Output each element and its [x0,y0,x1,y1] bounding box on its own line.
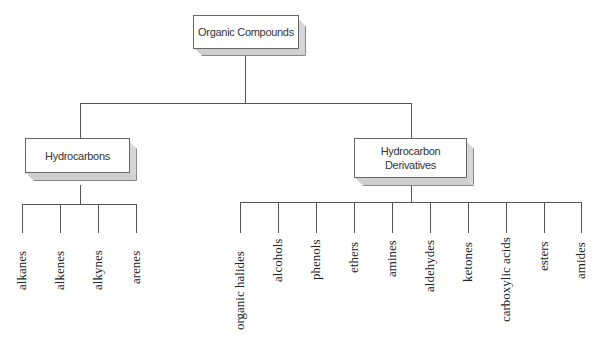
derivatives-drop [411,103,412,139]
derivatives-node: Hydrocarbon Derivatives [354,138,467,178]
derivatives-children-bar [240,202,582,203]
derivatives-label-line1: Hydrocarbon [381,144,441,158]
leaf-arenes: arenes [128,251,144,284]
leaf-ethers: ethers [346,242,362,273]
leaf-line-alkynes [98,204,99,233]
hydrocarbons-shadow-bottom [25,172,137,181]
leaf-line-organic-halides [240,202,241,233]
leaf-carboxylic-acids: carboxylic acids [498,237,514,322]
leaf-phenols: phenols [308,240,324,280]
level1-bar [80,103,412,104]
leaf-line-carboxylic-acids [506,202,507,233]
leaf-aldehydes: aldehydes [422,240,438,292]
leaf-amides: amides [573,242,589,279]
leaf-line-alkanes [22,204,23,233]
derivatives-shadow-bottom [354,177,474,186]
hydrocarbons-children-bar [22,204,137,205]
leaf-line-arenes [136,204,137,233]
leaf-alkenes: alkenes [52,251,68,290]
leaf-alkanes: alkanes [14,251,30,290]
leaf-line-ketones [468,202,469,233]
root-stem [245,56,246,103]
leaf-line-alkenes [60,204,61,233]
leaf-ketones: ketones [460,242,476,282]
hydrocarbons-node: Hydrocarbons [25,138,130,173]
leaf-line-amides [581,202,582,233]
leaf-amines: amines [384,240,400,277]
leaf-line-phenols [316,202,317,233]
leaf-line-ethers [354,202,355,233]
leaf-line-esters [544,202,545,233]
leaf-esters: esters [536,241,552,271]
leaf-line-amines [392,202,393,233]
leaf-line-alcohols [278,202,279,233]
root-label: Organic Compounds [198,26,294,38]
leaf-organic-halides: organic halides [232,251,248,330]
derivatives-stem [411,186,412,203]
derivatives-label-line2: Derivatives [385,158,436,172]
hydrocarbons-label: Hydrocarbons [45,150,110,162]
leaf-line-aldehydes [430,202,431,233]
leaf-alkynes: alkynes [90,250,106,290]
leaf-alcohols: alcohols [270,239,286,282]
hydrocarbons-stem [80,185,81,204]
hydrocarbons-drop [80,103,81,139]
root-node: Organic Compounds [193,15,299,49]
